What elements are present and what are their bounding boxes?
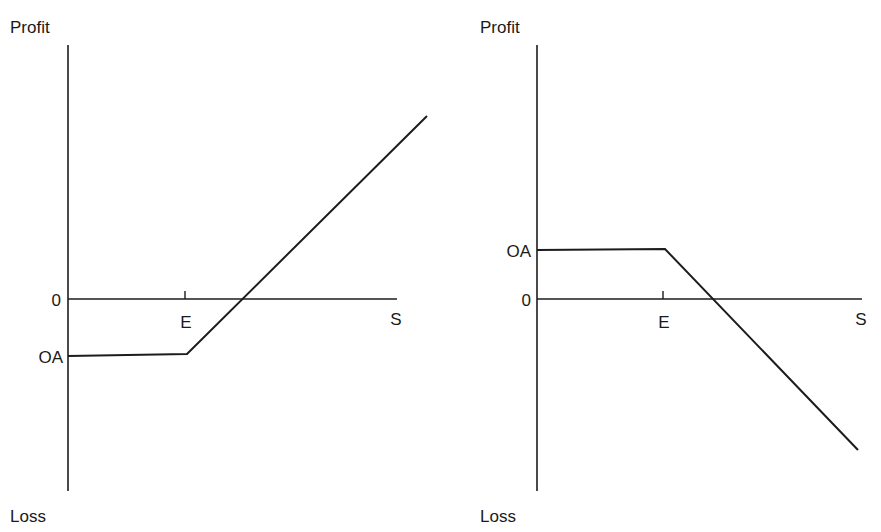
right-chart-profit-label: Profit — [480, 18, 520, 37]
payoff-diagram-canvas: Profit Loss 0 OA E S Profit Loss OA 0 E — [0, 0, 881, 532]
left-chart: Profit Loss 0 OA E S — [10, 18, 427, 526]
right-chart-strike-label: E — [658, 313, 669, 332]
right-chart-loss-label: Loss — [480, 507, 516, 526]
right-chart: Profit Loss OA 0 E S — [480, 18, 867, 526]
right-chart-stock-price-label: S — [855, 310, 866, 329]
left-chart-premium-label: OA — [38, 348, 63, 367]
left-chart-strike-label: E — [180, 313, 191, 332]
right-chart-zero-label: 0 — [522, 291, 531, 310]
payoff-diagram-figure: Profit Loss 0 OA E S Profit Loss OA 0 E — [0, 0, 881, 532]
left-chart-payoff-line — [68, 116, 427, 356]
right-chart-premium-label: OA — [506, 242, 531, 261]
left-chart-loss-label: Loss — [10, 507, 46, 526]
right-chart-payoff-line — [537, 249, 858, 450]
left-chart-profit-label: Profit — [10, 18, 50, 37]
left-chart-zero-label: 0 — [52, 291, 61, 310]
left-chart-stock-price-label: S — [390, 310, 401, 329]
